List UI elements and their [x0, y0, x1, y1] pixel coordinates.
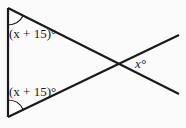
top-angle-label: (x + 15)° [9, 26, 56, 41]
upper-transversal-line [8, 8, 179, 94]
angle-diagram: (x + 15)° (x + 15)° x° [0, 0, 186, 128]
bottom-angle-label: (x + 15)° [9, 84, 56, 99]
bottom-angle-arc [8, 100, 23, 110]
vertical-angle-label: x° [134, 56, 146, 71]
lower-transversal-line [8, 35, 179, 117]
top-angle-arc [8, 16, 23, 25]
